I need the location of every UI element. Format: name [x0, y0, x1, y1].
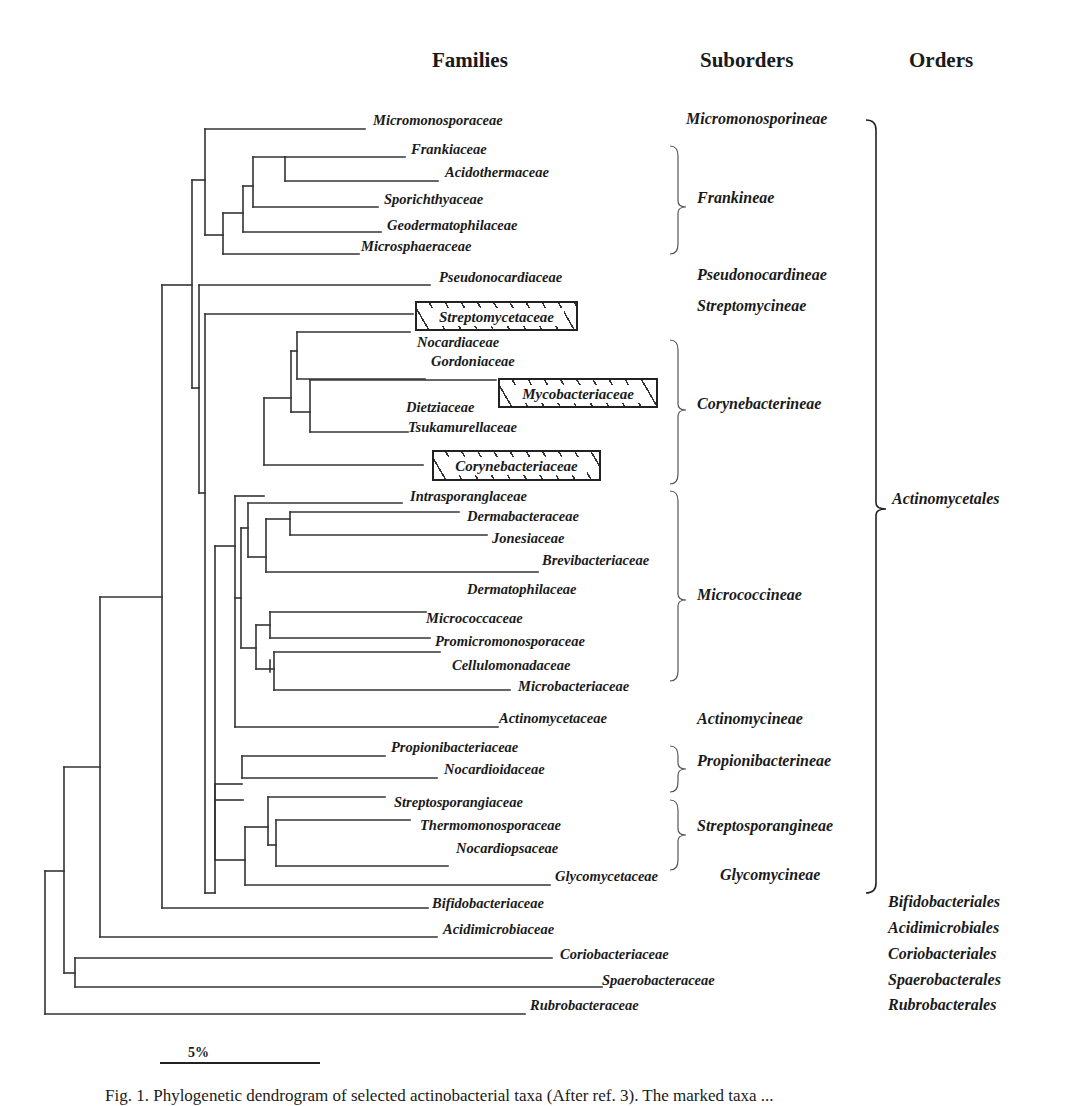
family-label: Nocardiaceae	[417, 333, 499, 351]
highlighted-family-box: Mycobacteriaceae	[498, 378, 658, 408]
family-label: Tsukamurellaceae	[408, 418, 517, 436]
scale-bar-label: 5%	[188, 1045, 209, 1061]
brace	[670, 800, 686, 870]
suborder-label: Actinomycineae	[697, 709, 803, 729]
family-label: Corynebacteriaceae	[446, 457, 587, 475]
family-label: Spaerobacteraceae	[602, 971, 715, 989]
family-label: Frankiaceae	[411, 140, 487, 158]
figure-caption: Fig. 1. Phylogenetic dendrogram of selec…	[105, 1086, 774, 1106]
family-label: Jonesiaceae	[492, 529, 564, 547]
family-label: Sporichthyaceae	[384, 190, 483, 208]
family-label: Dietziaceae	[406, 398, 474, 416]
family-label: Streptosporangiaceae	[394, 793, 523, 811]
family-label: Thermomonosporaceae	[420, 816, 561, 834]
family-label: Dermatophilaceae	[467, 580, 577, 598]
family-label: Rubrobacteraceae	[530, 996, 639, 1014]
brace	[670, 146, 686, 254]
suborder-label: Frankineae	[697, 188, 774, 208]
suborder-label: Micrococcineae	[697, 585, 802, 605]
order-brace-actinomycetales	[866, 120, 886, 893]
family-label: Propionibacteriaceae	[391, 738, 518, 756]
order-label: Actinomycetales	[892, 489, 1000, 509]
suborder-label: Glycomycineae	[720, 865, 820, 885]
family-label: Microsphaeraceae	[361, 237, 471, 255]
family-label: Micrococcaceae	[426, 609, 523, 627]
family-label: Nocardioidaceae	[444, 760, 545, 778]
suborder-label: Propionibacterineae	[697, 751, 831, 771]
order-label: Bifidobacteriales	[888, 892, 1000, 912]
order-label: Acidimicrobiales	[888, 918, 999, 938]
family-label: Streptomycetaceae	[429, 308, 564, 326]
suborder-label: Pseudonocardineae	[697, 265, 827, 285]
highlighted-family-box: Corynebacteriaceae	[432, 450, 601, 481]
family-label: Dermabacteraceae	[467, 507, 579, 525]
family-label: Micromonosporaceae	[373, 111, 503, 129]
brace	[670, 340, 686, 484]
family-label: Gordoniaceae	[431, 352, 515, 370]
order-label: Spaerobacterales	[888, 970, 1001, 990]
suborder-label: Streptosporangineae	[697, 816, 833, 836]
order-label: Rubrobacterales	[888, 995, 996, 1015]
suborder-label: Streptomycineae	[697, 296, 806, 316]
family-label: Glycomycetaceae	[555, 867, 658, 885]
family-label: Bifidobacteriaceae	[432, 894, 544, 912]
brace	[670, 491, 686, 681]
family-label: Actinomycetaceae	[499, 709, 607, 727]
suborder-label: Micromonosporineae	[686, 109, 827, 129]
family-label: Pseudonocardiaceae	[439, 268, 562, 286]
suborder-braces	[670, 146, 686, 870]
family-label: Brevibacteriaceae	[542, 551, 649, 569]
order-label: Coriobacteriales	[888, 944, 996, 964]
family-label: Mycobacteriaceae	[512, 385, 644, 403]
family-label: Acidothermaceae	[445, 163, 549, 181]
family-label: Intrasporanglaceae	[410, 487, 527, 505]
family-label: Cellulomonadaceae	[452, 656, 570, 674]
highlighted-family-box: Streptomycetaceae	[415, 301, 578, 331]
tree-branches	[45, 129, 602, 1014]
family-label: Geodermatophilaceae	[387, 216, 517, 234]
family-label: Nocardiopsaceae	[456, 839, 558, 857]
suborder-label: Corynebacterineae	[697, 394, 821, 414]
family-label: Coriobacteriaceae	[560, 945, 669, 963]
family-label: Acidimicrobiaceae	[443, 920, 554, 938]
family-label: Microbacteriaceae	[518, 677, 629, 695]
brace	[670, 746, 686, 792]
family-label: Promicromonosporaceae	[435, 632, 585, 650]
